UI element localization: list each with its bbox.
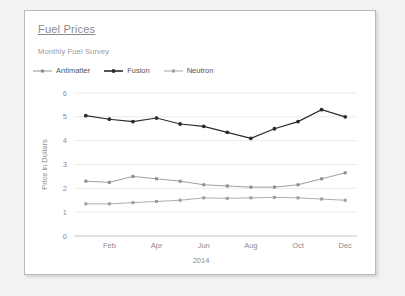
data-point-neutron[interactable] bbox=[273, 196, 276, 199]
data-point-fusion[interactable] bbox=[84, 114, 88, 118]
y-tick-label: 1 bbox=[63, 208, 67, 217]
x-tick-label: Oct bbox=[292, 241, 305, 250]
data-point-antimatter[interactable] bbox=[84, 180, 87, 183]
legend-item-antimatter[interactable]: Antimatter bbox=[33, 67, 90, 75]
y-tick-label: 3 bbox=[63, 160, 67, 169]
data-point-neutron[interactable] bbox=[344, 199, 347, 202]
data-point-antimatter[interactable] bbox=[273, 186, 276, 189]
chart-card: Fuel Prices Monthly Fuel Survey Antimatt… bbox=[24, 10, 376, 275]
data-point-neutron[interactable] bbox=[297, 196, 300, 199]
data-point-neutron[interactable] bbox=[202, 196, 205, 199]
data-point-fusion[interactable] bbox=[249, 136, 253, 140]
x-tick-label: Jun bbox=[198, 241, 210, 250]
data-point-neutron[interactable] bbox=[179, 199, 182, 202]
x-tick-label: Dec bbox=[339, 241, 353, 250]
chart-legend: AntimatterFusionNeutron bbox=[33, 67, 213, 75]
data-point-fusion[interactable] bbox=[296, 120, 300, 124]
x-tick-label: Feb bbox=[103, 241, 116, 250]
legend-item-neutron[interactable]: Neutron bbox=[164, 67, 214, 75]
legend-item-fusion[interactable]: Fusion bbox=[104, 67, 150, 75]
data-point-antimatter[interactable] bbox=[131, 175, 134, 178]
legend-swatch-fusion-icon bbox=[104, 67, 123, 75]
series-line-antimatter[interactable] bbox=[86, 173, 345, 187]
data-point-antimatter[interactable] bbox=[249, 186, 252, 189]
data-point-fusion[interactable] bbox=[225, 130, 229, 134]
page-background: Fuel Prices Monthly Fuel Survey Antimatt… bbox=[0, 0, 405, 296]
legend-label: Fusion bbox=[127, 67, 150, 75]
data-point-antimatter[interactable] bbox=[320, 177, 323, 180]
y-tick-label: 5 bbox=[63, 112, 67, 121]
data-point-fusion[interactable] bbox=[273, 127, 277, 131]
y-tick-label: 4 bbox=[63, 136, 67, 145]
x-axis-title: 2014 bbox=[25, 256, 377, 265]
data-point-antimatter[interactable] bbox=[108, 181, 111, 184]
data-point-neutron[interactable] bbox=[108, 202, 111, 205]
series-line-fusion[interactable] bbox=[86, 110, 345, 139]
data-point-neutron[interactable] bbox=[84, 202, 87, 205]
legend-label: Neutron bbox=[187, 67, 214, 75]
data-point-antimatter[interactable] bbox=[202, 183, 205, 186]
legend-label: Antimatter bbox=[56, 67, 90, 75]
data-point-fusion[interactable] bbox=[155, 116, 159, 120]
data-point-fusion[interactable] bbox=[202, 124, 206, 128]
data-point-antimatter[interactable] bbox=[226, 184, 229, 187]
y-tick-label: 0 bbox=[63, 232, 67, 241]
series-line-neutron[interactable] bbox=[86, 197, 345, 203]
plot-area: 0123456FebAprJunAugOctDecPrice in Dollar… bbox=[38, 87, 363, 262]
data-point-antimatter[interactable] bbox=[179, 180, 182, 183]
data-point-fusion[interactable] bbox=[131, 120, 135, 124]
data-point-neutron[interactable] bbox=[249, 196, 252, 199]
data-point-antimatter[interactable] bbox=[155, 177, 158, 180]
data-point-neutron[interactable] bbox=[155, 200, 158, 203]
y-axis-title: Price in Dollars bbox=[40, 139, 49, 190]
data-point-fusion[interactable] bbox=[178, 122, 182, 126]
chart-subtitle: Monthly Fuel Survey bbox=[38, 47, 109, 56]
x-tick-label: Aug bbox=[244, 241, 257, 250]
data-point-fusion[interactable] bbox=[107, 117, 111, 121]
y-tick-label: 2 bbox=[63, 184, 67, 193]
chart-title: Fuel Prices bbox=[38, 23, 95, 35]
data-point-neutron[interactable] bbox=[226, 197, 229, 200]
data-point-antimatter[interactable] bbox=[344, 171, 347, 174]
x-tick-label: Apr bbox=[151, 241, 163, 250]
data-point-fusion[interactable] bbox=[320, 108, 324, 112]
line-chart-svg: 0123456FebAprJunAugOctDecPrice in Dollar… bbox=[38, 87, 363, 262]
legend-swatch-neutron-icon bbox=[164, 67, 183, 75]
legend-swatch-antimatter-icon bbox=[33, 67, 52, 75]
data-point-neutron[interactable] bbox=[131, 201, 134, 204]
data-point-neutron[interactable] bbox=[320, 198, 323, 201]
y-tick-label: 6 bbox=[63, 89, 67, 98]
data-point-antimatter[interactable] bbox=[297, 183, 300, 186]
data-point-fusion[interactable] bbox=[343, 115, 347, 119]
